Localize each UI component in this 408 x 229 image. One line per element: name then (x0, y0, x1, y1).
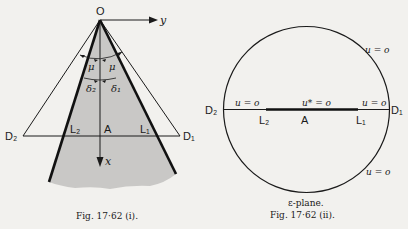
plane-label: ε-plane. (288, 198, 324, 208)
l2-label: L₂ (70, 123, 80, 135)
boundary-label-lower-right: u = o (366, 167, 391, 177)
boundary-label-right-segment: u = o (362, 98, 387, 108)
x-axis-label: x (105, 155, 112, 168)
caption-ii: Fig. 17·62 (ii). (270, 210, 335, 220)
d2-label: D₂ (5, 130, 17, 142)
delta-right-label: δ₁ (111, 83, 121, 94)
a-label-ii: A (301, 114, 309, 126)
mu-left-label: μ (88, 61, 95, 72)
diagram-canvas: O y x μ μ δ₂ δ₁ D₂ D₁ L₂ A L₁ Fig. 17·62… (0, 0, 408, 229)
y-axis-label: y (159, 14, 167, 27)
figure-i: O y x μ μ δ₂ δ₁ D₂ D₁ L₂ A L₁ Fig. 17·62… (5, 5, 195, 221)
l1-label: L₁ (140, 123, 150, 135)
figure-ii: D₂ D₁ L₂ A L₁ u = o u* = o u = o u = o u… (205, 27, 403, 221)
origin-label: O (96, 5, 105, 17)
boundary-label-left-segment: u = o (235, 98, 260, 108)
delta-left-label: δ₂ (86, 83, 96, 94)
l1-label-ii: L₁ (356, 114, 366, 126)
boundary-label-center-segment: u* = o (302, 98, 332, 108)
boundary-label-upper-right: u = o (365, 45, 390, 55)
a-label-i: A (104, 123, 112, 135)
d1-label-ii: D₁ (391, 104, 403, 116)
l2-label-ii: L₂ (259, 114, 269, 126)
y-axis-arrowhead (149, 17, 158, 24)
d2-label-ii: D₂ (205, 104, 217, 116)
d1-label: D₁ (183, 130, 195, 142)
mu-right-label: μ (109, 61, 116, 72)
caption-i: Fig. 17·62 (i). (76, 211, 138, 221)
